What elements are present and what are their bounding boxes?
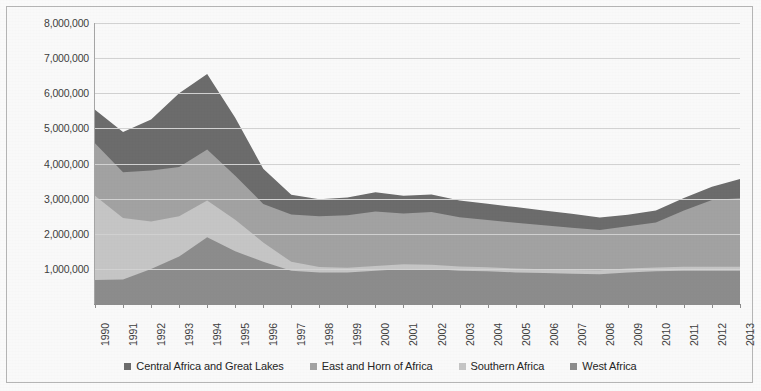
x-axis-tick [151, 304, 152, 308]
y-axis-tick-label: 5,000,000 [11, 123, 89, 133]
x-axis-tick [684, 304, 685, 308]
x-axis-tick-label: 1997 [295, 323, 307, 346]
x-axis-tick-label: 2010 [660, 323, 672, 346]
x-axis-tick [740, 304, 741, 308]
gridline [95, 164, 740, 165]
x-axis-tick-label: 2008 [604, 323, 616, 346]
chart-legend: Central Africa and Great LakesEast and H… [7, 355, 754, 377]
x-axis-tick-label: 2001 [407, 323, 419, 346]
gridline [95, 234, 740, 235]
x-axis-tick [95, 304, 96, 308]
x-axis-tick-label: 2002 [436, 323, 448, 346]
x-axis-tick [179, 304, 180, 308]
legend-label: East and Horn of Africa [322, 360, 433, 372]
x-axis-tick-label: 2012 [716, 323, 728, 346]
x-axis-tick [291, 304, 292, 308]
x-axis-tick-label: 1998 [323, 323, 335, 346]
x-axis-tick-label: 1992 [155, 323, 167, 346]
legend-item[interactable]: Southern Africa [459, 360, 545, 372]
gridline [95, 93, 740, 94]
x-axis-tick [572, 304, 573, 308]
y-axis-tick-label: 6,000,000 [11, 88, 89, 98]
x-axis-tick-label: 1993 [183, 323, 195, 346]
x-axis-tick-label: 1994 [211, 323, 223, 346]
legend-swatch-icon [124, 363, 131, 370]
y-axis-line [94, 23, 95, 305]
x-axis-tick-label: 1990 [99, 323, 111, 346]
y-axis-tick-label: 4,000,000 [11, 159, 89, 169]
x-axis-tick [516, 304, 517, 308]
x-axis-tick-label: 2003 [464, 323, 476, 346]
x-axis-tick-label: 1995 [239, 323, 251, 346]
legend-swatch-icon [310, 363, 317, 370]
x-axis-tick-label: 2013 [744, 323, 756, 346]
x-axis-tick-label: 2007 [576, 323, 588, 346]
gridline [95, 58, 740, 59]
legend-swatch-icon [570, 363, 577, 370]
y-axis-labels: 8,000,0007,000,0006,000,0005,000,0004,00… [7, 7, 89, 327]
legend-label: Southern Africa [471, 360, 545, 372]
x-axis-tick [460, 304, 461, 308]
x-axis-tick [656, 304, 657, 308]
gridline [95, 199, 740, 200]
x-axis-tick-label: 1999 [351, 323, 363, 346]
x-axis-tick [600, 304, 601, 308]
x-axis-tick [263, 304, 264, 308]
x-axis-tick [712, 304, 713, 308]
x-axis-tick [403, 304, 404, 308]
plot-area [95, 23, 740, 304]
x-axis-tick [207, 304, 208, 308]
x-axis-tick-label: 2011 [688, 324, 700, 346]
gridline [95, 269, 740, 270]
x-axis-labels: 1990199119921993199419951996199719981999… [95, 309, 741, 353]
x-axis-tick [628, 304, 629, 308]
x-axis-tick [544, 304, 545, 308]
x-axis-tick [432, 304, 433, 308]
x-axis-tick [488, 304, 489, 308]
x-axis-tick-label: 2009 [632, 323, 644, 346]
x-axis-tick-label: 1991 [127, 323, 139, 346]
x-axis-tick-label: 2004 [492, 323, 504, 346]
y-axis-tick-label: 8,000,000 [11, 18, 89, 28]
legend-item[interactable]: Central Africa and Great Lakes [124, 360, 283, 372]
x-axis-tick [123, 304, 124, 308]
x-axis-tick-label: 2000 [379, 323, 391, 346]
y-axis-tick-label: 1,000,000 [11, 264, 89, 274]
legend-label: West Africa [582, 360, 636, 372]
legend-label: Central Africa and Great Lakes [136, 360, 283, 372]
x-axis-tick [235, 304, 236, 308]
x-axis-tick [375, 304, 376, 308]
legend-swatch-icon [459, 363, 466, 370]
y-axis-tick-label: 3,000,000 [11, 194, 89, 204]
gridline [95, 128, 740, 129]
x-axis-tick-label: 2006 [548, 323, 560, 346]
x-axis-tick-label: 2005 [520, 323, 532, 346]
chart-frame: 8,000,0007,000,0006,000,0005,000,0004,00… [6, 6, 753, 383]
y-axis-tick-label: 2,000,000 [11, 229, 89, 239]
x-axis-tick [319, 304, 320, 308]
x-axis-tick [347, 304, 348, 308]
y-axis-tick-label: 7,000,000 [11, 53, 89, 63]
gridline [95, 23, 740, 24]
legend-item[interactable]: West Africa [570, 360, 636, 372]
x-axis-tick-label: 1996 [267, 323, 279, 346]
legend-item[interactable]: East and Horn of Africa [310, 360, 433, 372]
